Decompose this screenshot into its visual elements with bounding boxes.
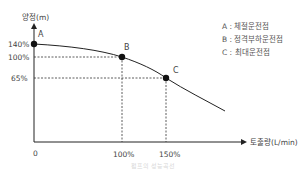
legend-item-a: A : 체절운전점 [222, 20, 283, 33]
legend: A : 체절운전점 B : 정격부하운전점 C : 최대운전점 [222, 20, 283, 59]
point-b-marker [119, 54, 125, 60]
y-tick-65: 65% [11, 74, 28, 83]
x-tick-150: 150% [159, 150, 180, 159]
figure-caption: 펌프의 성능곡선 [0, 161, 306, 170]
point-a-label: A [38, 30, 44, 39]
y-tick-140: 140% [8, 40, 29, 49]
point-b-label: B [124, 43, 130, 52]
origin-label: 0 [33, 149, 38, 158]
point-a-marker [31, 41, 37, 47]
point-c-marker [163, 75, 169, 81]
x-tick-100: 100% [113, 150, 134, 159]
x-axis-label: 토출량(L/min) [250, 137, 298, 147]
y-axis-label: 양정(m) [22, 12, 49, 22]
y-tick-100: 100% [8, 53, 29, 62]
performance-curve [34, 44, 225, 111]
legend-item-c: C : 최대운전점 [222, 46, 283, 59]
point-c-label: C [173, 66, 179, 75]
legend-item-b: B : 정격부하운전점 [222, 33, 283, 46]
reference-lines [34, 57, 166, 142]
